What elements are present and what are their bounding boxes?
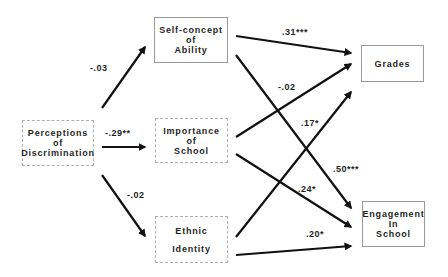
node-label-line: Importance [163, 126, 220, 136]
path-diagram: Perceptions of Discrimination Self-conce… [0, 0, 448, 277]
coef-perceptions-to-importance: -.29** [105, 128, 131, 138]
node-ethnic-identity: Ethnic Identity [155, 216, 228, 263]
node-perceptions-of-discrimination: Perceptions of Discrimination [22, 120, 94, 166]
arrow-importance-to-grades [236, 64, 351, 137]
node-label-line: Ability [174, 45, 207, 55]
node-label-line: Self-concept [159, 25, 223, 35]
node-label-line: Engagement [363, 209, 425, 219]
node-label-line: Perceptions [28, 128, 88, 138]
coef-perceptions-to-self-concept: -.03 [90, 63, 108, 73]
coef-ethnic-to-grades: .17* [301, 118, 319, 128]
coef-self-concept-to-grades: .31*** [282, 27, 308, 37]
node-label-line: Identity [172, 240, 210, 258]
node-label-line: School [174, 146, 209, 156]
arrow-self-concept-to-engagement [236, 55, 351, 208]
node-grades: Grades [361, 45, 424, 82]
arrow-perceptions-to-self-concept [102, 47, 145, 108]
node-label-line: In [389, 219, 399, 229]
node-label-line: School [376, 229, 411, 239]
coef-perceptions-to-ethnic: -.02 [127, 190, 145, 200]
arrow-ethnic-to-engagement [236, 246, 351, 255]
arrow-perceptions-to-ethnic [102, 175, 145, 236]
coef-importance-to-grades: -.02 [278, 82, 296, 92]
coef-self-concept-to-engagement: .50*** [333, 164, 359, 174]
node-label-line: of [53, 138, 63, 148]
node-label-line: Ethnic [175, 222, 207, 240]
node-importance-of-school: Importance of School [155, 118, 228, 163]
coef-importance-to-engagement: .24* [298, 184, 316, 194]
node-label-line: of [186, 35, 196, 45]
node-engagement-in-school: Engagement In School [362, 201, 425, 247]
node-self-concept-of-ability: Self-concept of Ability [154, 17, 228, 63]
coef-ethnic-to-engagement: .20* [306, 229, 324, 239]
node-label-line: Discrimination [21, 148, 95, 158]
node-label-line: Grades [375, 59, 411, 69]
arrow-self-concept-to-grades [236, 36, 351, 53]
node-label-line: of [186, 136, 196, 146]
